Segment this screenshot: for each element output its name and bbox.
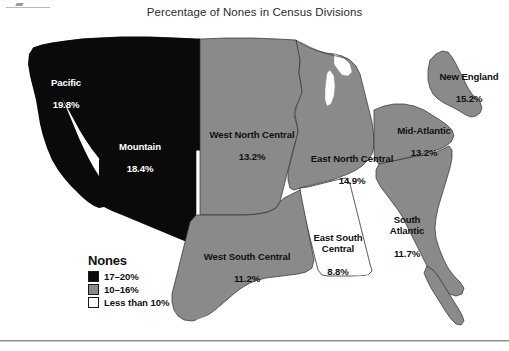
label-mountain-value: 18.4%	[88, 163, 192, 174]
label-south-atlantic-name: South Atlantic	[374, 214, 440, 236]
label-west-north-central: West North Central 13.2%	[196, 118, 308, 174]
label-mountain-name: Mountain	[88, 141, 192, 152]
label-mid-atlantic-value: 13.2%	[386, 147, 462, 158]
figure-bottom-rule	[0, 340, 509, 342]
legend-swatch-low	[88, 297, 99, 308]
label-west-south-central: West South Central 11.2%	[192, 240, 302, 296]
label-south-atlantic-value: 11.7%	[374, 248, 440, 259]
legend-title: Nones	[88, 253, 206, 268]
label-mid-atlantic: Mid-Atlantic 13.2%	[386, 114, 462, 170]
legend-item-mid[interactable]: 10–16%	[88, 284, 206, 295]
label-east-south-central-value: 8.8%	[300, 266, 376, 277]
label-west-south-central-value: 11.2%	[192, 273, 302, 284]
map-legend: Nones 17–20% 10–16% Less than 10%	[88, 253, 206, 310]
label-pacific-value: 19.8%	[20, 99, 112, 110]
choropleth-map-figure: Percentage of Nones in Census Divisions	[0, 0, 509, 351]
legend-swatch-mid	[88, 284, 99, 295]
label-new-england-name: New England	[430, 71, 508, 82]
label-west-north-central-value: 13.2%	[196, 151, 308, 162]
legend-label-low: Less than 10%	[104, 297, 169, 308]
legend-label-high: 17–20%	[104, 271, 139, 282]
legend-swatch-high	[88, 271, 99, 282]
label-east-south-central-name: East South Central	[300, 232, 376, 254]
label-new-england: New England 15.2%	[430, 60, 508, 116]
label-south-atlantic: South Atlantic 11.7%	[374, 203, 440, 270]
label-mountain: Mountain 18.4%	[88, 130, 192, 186]
label-new-england-value: 15.2%	[430, 93, 508, 104]
legend-item-high[interactable]: 17–20%	[88, 271, 206, 282]
label-west-north-central-name: West North Central	[196, 129, 308, 140]
label-west-south-central-name: West South Central	[192, 251, 302, 262]
page-title: Percentage of Nones in Census Divisions	[0, 6, 509, 18]
label-pacific-name: Pacific	[20, 77, 112, 88]
legend-label-mid: 10–16%	[104, 284, 139, 295]
label-east-north-central-value: 14.9%	[298, 175, 406, 186]
label-east-south-central: East South Central 8.8%	[300, 221, 376, 288]
label-mid-atlantic-name: Mid-Atlantic	[386, 125, 462, 136]
legend-item-low[interactable]: Less than 10%	[88, 297, 206, 308]
label-pacific: Pacific 19.8%	[20, 66, 112, 122]
